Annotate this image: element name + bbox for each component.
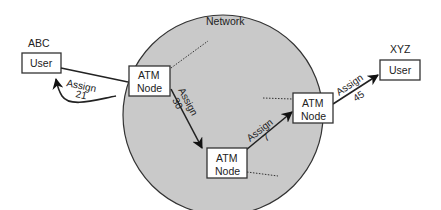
atm-node-3[interactable]: ATM Node xyxy=(293,93,333,123)
user-abc-label: User xyxy=(30,57,53,69)
user-abc-box[interactable]: User xyxy=(22,53,61,73)
atm-node-2-line2: Node xyxy=(215,165,240,177)
atm-node-1-line1: ATM xyxy=(138,69,159,81)
atm-node-1-line2: Node xyxy=(137,82,162,94)
atm-node-1[interactable]: ATM Node xyxy=(129,66,170,96)
atm-node-2[interactable]: ATM Node xyxy=(207,148,247,178)
user-xyz-label: User xyxy=(389,64,412,76)
user-abc-name: ABC xyxy=(28,37,50,49)
link-21-value: 21 xyxy=(75,88,89,101)
atm-node-3-line1: ATM xyxy=(302,97,323,109)
network-diagram: Network ABC User XYZ User Assign 21 Assi… xyxy=(0,0,441,210)
network-label: Network xyxy=(206,15,245,27)
atm-node-3-line2: Node xyxy=(301,110,326,122)
atm-node-2-line1: ATM xyxy=(216,152,237,164)
user-xyz-name: XYZ xyxy=(390,43,411,55)
user-xyz-box[interactable]: User xyxy=(380,60,420,80)
